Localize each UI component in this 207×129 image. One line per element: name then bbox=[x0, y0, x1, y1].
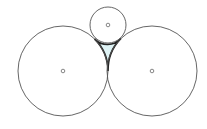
top-circle-center-marker bbox=[106, 23, 110, 27]
top-circle bbox=[90, 7, 126, 43]
right-circle-center-marker bbox=[150, 69, 154, 73]
tangent-circles-diagram bbox=[0, 0, 207, 129]
left-circle-center-marker bbox=[61, 69, 65, 73]
